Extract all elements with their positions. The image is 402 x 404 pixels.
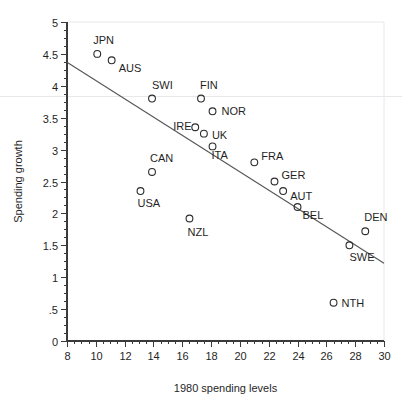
data-point-marker: [200, 130, 207, 137]
data-point-label: USA: [137, 197, 160, 209]
data-point-marker: [186, 215, 193, 222]
y-axis-tick-label: 1: [52, 272, 58, 284]
scatter-plot-figure: 0.511.522.533.544.5581012141618202224262…: [0, 0, 402, 404]
data-point-label: NTH: [342, 297, 365, 309]
y-axis-tick-label: 4.5: [43, 49, 58, 61]
plot-canvas: 0.511.522.533.544.5581012141618202224262…: [0, 0, 402, 404]
y-axis-tick-label: 0: [52, 336, 58, 348]
data-point-label: UK: [212, 129, 228, 141]
data-point-label: AUS: [119, 62, 142, 74]
x-axis-tick-label: 28: [349, 350, 361, 362]
data-point-label: AUT: [290, 190, 312, 202]
y-axis-tick-label: .5: [49, 304, 58, 316]
x-axis-tick-label: 16: [176, 350, 188, 362]
data-point-marker: [271, 178, 278, 185]
data-point-marker: [280, 188, 287, 195]
x-axis-tick-label: 30: [378, 350, 390, 362]
data-point-label: BEL: [303, 209, 324, 221]
data-point-label: GER: [281, 169, 305, 181]
data-point-label: IRE: [173, 120, 191, 132]
y-axis-title: Spending growth: [12, 140, 24, 223]
x-axis-tick-label: 12: [119, 350, 131, 362]
x-axis-tick-label: 22: [263, 350, 275, 362]
data-point-marker: [330, 299, 337, 306]
x-axis-tick-label: 10: [90, 350, 102, 362]
data-point-label: SWI: [152, 79, 173, 91]
data-point-label: NOR: [222, 105, 247, 117]
data-point-label: NZL: [187, 226, 208, 238]
data-point-marker: [346, 242, 353, 249]
x-axis-title: 1980 spending levels: [174, 382, 278, 394]
data-point-marker: [251, 159, 258, 166]
y-axis-tick-label: 1.5: [43, 240, 58, 252]
x-axis-tick-label: 26: [320, 350, 332, 362]
data-point-marker: [362, 228, 369, 235]
data-point-marker: [192, 124, 199, 131]
data-point-label: FRA: [261, 150, 284, 162]
data-point-marker: [209, 108, 216, 115]
x-axis-tick-label: 20: [234, 350, 246, 362]
y-axis-tick-label: 3: [52, 145, 58, 157]
data-point-label: JPN: [93, 34, 114, 46]
y-axis-tick-label: 4: [52, 81, 58, 93]
data-point-label: DEN: [364, 211, 387, 223]
data-point-label: FIN: [200, 79, 218, 91]
data-point-marker: [94, 51, 101, 58]
data-point-marker: [137, 188, 144, 195]
y-axis-tick-label: 3.5: [43, 113, 58, 125]
x-axis-tick-label: 18: [205, 350, 217, 362]
regression-line: [67, 62, 384, 263]
y-axis-tick-label: 5: [52, 17, 58, 29]
x-axis-tick-label: 24: [292, 350, 304, 362]
y-axis-tick-label: 2: [52, 208, 58, 220]
x-axis-tick-label: 8: [64, 350, 70, 362]
data-point-label: CAN: [150, 152, 173, 164]
x-axis-tick-label: 14: [147, 350, 159, 362]
data-point-marker: [149, 169, 156, 176]
data-point-label: SWE: [349, 251, 374, 263]
y-axis-tick-label: 2.5: [43, 177, 58, 189]
data-point-label: ITA: [212, 149, 229, 161]
data-point-marker: [108, 57, 115, 64]
